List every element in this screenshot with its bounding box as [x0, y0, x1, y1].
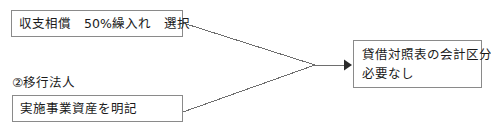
node-balance-sheet-result[interactable]: 貸借対照表の会計区分 必要なし: [353, 40, 482, 88]
node-balance-sheet-line-1: 貸借対照表の会計区分: [355, 45, 481, 64]
connector-offset-to-merge: [183, 23, 315, 65]
node-asset-statement-label: 実施事業資産を明記: [13, 99, 182, 118]
label-transition-corporation: ②移行法人: [12, 76, 75, 90]
diagram-canvas: 収支相償 50%繰入れ 選択 ②移行法人 実施事業資産を明記 貸借対照表の会計区…: [0, 0, 491, 132]
node-asset-statement[interactable]: 実施事業資産を明記: [12, 95, 183, 122]
node-offset-selection-label: 収支相償 50%繰入れ 選択: [12, 14, 182, 33]
node-offset-selection[interactable]: 収支相償 50%繰入れ 選択: [11, 10, 183, 37]
arrowhead-right-icon: [344, 60, 352, 71]
connector-asset-to-merge: [183, 65, 315, 112]
node-balance-sheet-line-2: 必要なし: [355, 64, 481, 83]
